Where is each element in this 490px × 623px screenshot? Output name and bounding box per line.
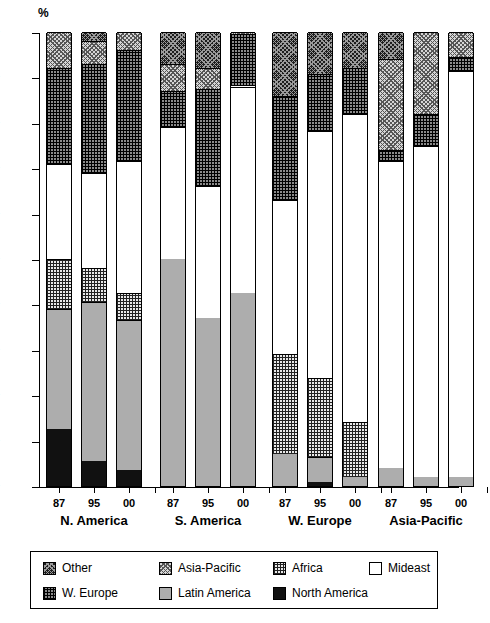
bar-samerica-95 — [195, 33, 221, 487]
legend-label: Africa — [292, 561, 323, 575]
segment-weurope — [47, 68, 71, 163]
x-tick — [94, 487, 95, 493]
segment-mideast — [82, 173, 106, 268]
segment-asiapac — [414, 32, 438, 114]
segment-other — [343, 32, 367, 68]
bar-weurope-00 — [342, 33, 368, 487]
legend-item-mideast[interactable]: Mideast — [369, 556, 430, 580]
y-tick-mark — [32, 169, 40, 170]
x-tick-label: 00 — [230, 497, 256, 509]
x-tick — [155, 487, 156, 493]
segment-asiapac — [196, 68, 220, 88]
segment-other — [379, 32, 403, 59]
y-tick-mark — [32, 396, 40, 397]
legend-label: Latin America — [178, 586, 251, 600]
x-tick — [487, 487, 488, 493]
segment-africa — [47, 259, 71, 309]
legend-item-other[interactable]: Other — [43, 556, 92, 580]
x-tick — [391, 487, 392, 493]
bar-weurope-87 — [272, 33, 298, 487]
segment-latin — [343, 477, 367, 486]
y-tick-mark — [32, 33, 40, 34]
legend-swatch-other-icon — [43, 562, 56, 575]
segment-other — [82, 32, 106, 41]
segment-africa — [273, 354, 297, 454]
x-tick — [243, 487, 244, 493]
segment-weurope — [82, 64, 106, 173]
legend-item-weurope[interactable]: W. Europe — [43, 581, 118, 605]
y-tick-mark — [32, 260, 40, 261]
bar-namerica-00 — [116, 33, 142, 487]
segment-north — [82, 461, 106, 486]
x-tick-label: 87 — [46, 497, 72, 509]
segment-mideast — [449, 71, 473, 477]
legend-item-latin[interactable]: Latin America — [159, 581, 251, 605]
legend-swatch-africa-icon — [273, 562, 286, 575]
group-label: Asia-Pacific — [362, 513, 490, 528]
segment-asiapac — [231, 32, 255, 34]
segment-africa — [82, 268, 106, 302]
segment-asiapac — [379, 59, 403, 150]
segment-mideast — [117, 161, 141, 293]
legend-label: W. Europe — [62, 586, 118, 600]
segment-latin — [196, 318, 220, 486]
y-tick-mark — [32, 124, 40, 125]
legend-item-africa[interactable]: Africa — [273, 556, 323, 580]
x-tick — [129, 487, 130, 493]
bar-asiapacific-00 — [448, 33, 474, 487]
segment-latin — [82, 302, 106, 461]
segment-africa — [343, 422, 367, 476]
x-tick — [381, 487, 382, 493]
bar-namerica-87 — [46, 33, 72, 487]
segment-weurope — [449, 57, 473, 71]
segment-mideast — [273, 200, 297, 354]
x-tick-label: 95 — [195, 497, 221, 509]
segment-latin — [161, 259, 185, 486]
legend-item-asiapac[interactable]: Asia-Pacific — [159, 556, 241, 580]
segment-north — [47, 429, 71, 486]
segment-asiapac — [82, 41, 106, 64]
x-tick-label: 95 — [413, 497, 439, 509]
segment-weurope — [161, 91, 185, 127]
x-tick — [285, 487, 286, 493]
legend-swatch-mideast-icon — [369, 562, 382, 575]
y-tick-mark — [32, 442, 40, 443]
y-axis-title: % — [38, 6, 49, 20]
x-tick-label: 00 — [342, 497, 368, 509]
y-tick-mark — [32, 351, 40, 352]
legend-item-north[interactable]: North America — [273, 581, 368, 605]
x-tick — [269, 487, 270, 493]
x-tick-label: 00 — [116, 497, 142, 509]
segment-weurope — [343, 68, 367, 113]
x-axis-line — [39, 487, 459, 488]
y-tick-mark — [32, 305, 40, 306]
bar-asiapacific-87 — [378, 33, 404, 487]
segment-latin — [117, 320, 141, 470]
segment-mideast — [47, 164, 71, 259]
x-tick-label: 87 — [160, 497, 186, 509]
legend-label: North America — [292, 586, 368, 600]
segment-mideast — [161, 127, 185, 259]
segment-latin — [414, 477, 438, 486]
legend-swatch-weurope-icon — [43, 587, 56, 600]
segment-asiapac — [117, 32, 141, 50]
bar-namerica-95 — [81, 33, 107, 487]
segment-latin — [47, 309, 71, 429]
segment-weurope — [196, 89, 220, 187]
y-tick-mark — [32, 78, 40, 79]
segment-weurope — [414, 114, 438, 146]
segment-north — [117, 470, 141, 486]
segment-mideast — [308, 131, 332, 378]
segment-latin — [379, 468, 403, 486]
y-tick-mark — [32, 215, 40, 216]
segment-other — [308, 32, 332, 74]
group-label: N. America — [30, 513, 158, 528]
x-tick-label: 00 — [448, 497, 474, 509]
x-tick — [59, 487, 60, 493]
segment-mideast — [379, 161, 403, 467]
segment-weurope — [231, 34, 255, 86]
segment-other — [273, 32, 297, 96]
segment-other — [161, 32, 185, 64]
segment-mideast — [414, 146, 438, 477]
segment-weurope — [117, 50, 141, 161]
